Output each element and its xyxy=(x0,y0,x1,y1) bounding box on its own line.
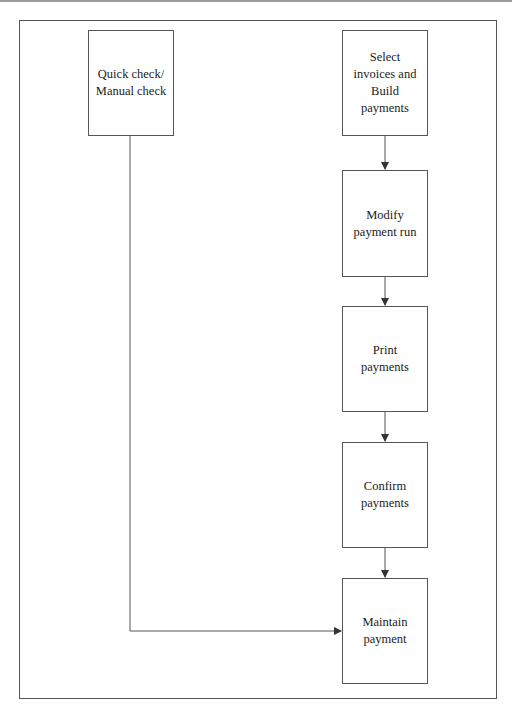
node-label: Select invoices and Build payments xyxy=(354,49,417,117)
node-modify-payment-run: Modify payment run xyxy=(342,170,428,277)
node-select-invoices-build-payments: Select invoices and Build payments xyxy=(342,30,428,136)
node-quick-manual-check: Quick check/ Manual check xyxy=(88,30,174,136)
node-maintain-payment: Maintain payment xyxy=(342,578,428,684)
node-label: Print payments xyxy=(361,342,409,376)
edge-quick-to-maintain xyxy=(130,135,341,631)
node-label: Quick check/ Manual check xyxy=(96,66,166,100)
node-confirm-payments: Confirm payments xyxy=(342,442,428,548)
node-label: Modify payment run xyxy=(354,207,417,241)
connectors xyxy=(0,0,512,714)
node-label: Confirm payments xyxy=(361,478,409,512)
node-print-payments: Print payments xyxy=(342,306,428,412)
node-label: Maintain payment xyxy=(362,614,407,648)
